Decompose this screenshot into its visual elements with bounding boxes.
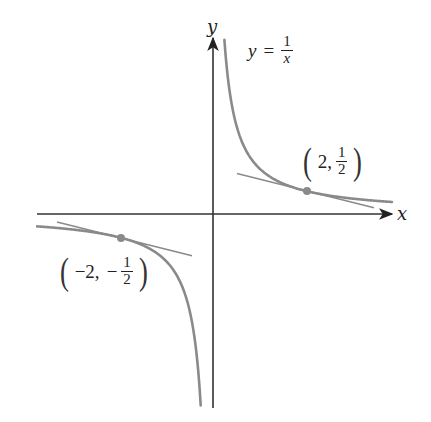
point-y-fraction: 1 2	[336, 145, 348, 178]
point-y-fraction: 1 2	[121, 255, 133, 288]
close-paren: )	[139, 252, 148, 290]
function-label-lhs: y	[248, 40, 256, 61]
graph-canvas: x y	[0, 0, 431, 422]
point-x-value: 2,	[318, 151, 332, 172]
point-y-numerator: 1	[336, 145, 348, 162]
x-axis-label: x	[397, 203, 407, 224]
function-label-equals: =	[263, 40, 274, 61]
function-label: y = 1 x	[248, 34, 293, 67]
point-2-half-label: ( 2, 1 2 )	[301, 142, 364, 180]
function-label-denominator: x	[282, 51, 293, 67]
point-y-denominator: 2	[121, 272, 133, 288]
open-paren: (	[60, 252, 69, 290]
function-label-fraction: 1 x	[281, 34, 293, 67]
point-y-denominator: 2	[336, 162, 348, 178]
point-y-sign: −	[107, 261, 118, 282]
function-label-numerator: 1	[281, 34, 293, 51]
open-paren: (	[303, 142, 312, 180]
y-axis-label: y	[206, 16, 218, 37]
hyperbola-figure: x y y = 1 x ( 2, 1 2 ) ( −2, − 1 2 )	[0, 0, 431, 422]
point-neg2-neghalf-dot	[117, 234, 125, 242]
point-2-half-dot	[303, 187, 311, 195]
point-neg2-neghalf-label: ( −2, − 1 2 )	[58, 252, 150, 290]
close-paren: )	[353, 142, 362, 180]
point-y-numerator: 1	[121, 255, 133, 272]
point-x-value: −2,	[75, 261, 100, 282]
